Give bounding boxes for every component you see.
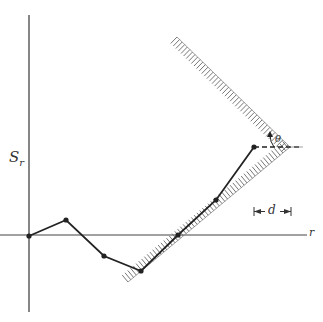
diagram-canvas (0, 0, 323, 322)
walk-point (26, 233, 31, 238)
distance-label: d (268, 203, 276, 217)
reflecting-walls (122, 37, 290, 282)
walk-point (175, 232, 180, 237)
walk-point (63, 217, 68, 222)
walk-point (138, 268, 143, 273)
walk-point (213, 197, 218, 202)
walk-points (26, 144, 256, 273)
horizontal-axis-label: r (309, 226, 314, 239)
walk-point (101, 253, 106, 258)
vertical-axis-label: Sr (9, 148, 24, 168)
random-walk-path (29, 147, 254, 271)
angle-label: θ (275, 133, 281, 144)
